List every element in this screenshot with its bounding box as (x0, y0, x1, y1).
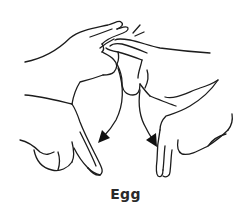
sign-caption: Egg (0, 186, 251, 202)
lower-right-hand (156, 80, 232, 177)
right-arrow (139, 90, 157, 147)
motion-lines (133, 25, 144, 36)
left-arrow (98, 68, 122, 143)
right-arrowhead-icon (146, 133, 157, 147)
upper-left-hand (25, 21, 128, 104)
lower-left-hand (20, 104, 102, 175)
sign-illustration (0, 0, 251, 206)
